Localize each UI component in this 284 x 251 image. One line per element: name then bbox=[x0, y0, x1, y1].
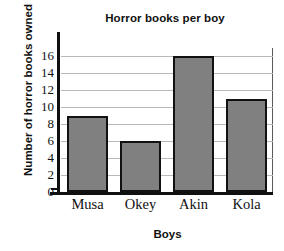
y-tick-label: 6 bbox=[28, 134, 54, 147]
gridline bbox=[61, 73, 273, 74]
x-tick-label-akin: Akin bbox=[167, 196, 220, 213]
y-axis-spine bbox=[57, 32, 60, 195]
gridline bbox=[61, 90, 273, 91]
gridline bbox=[61, 56, 273, 57]
bar-okey bbox=[120, 141, 161, 192]
origin-tick-mark bbox=[51, 188, 60, 190]
bar-akin bbox=[173, 56, 214, 192]
chart-title: Horror books per boy bbox=[60, 12, 270, 24]
y-tick-label: 10 bbox=[28, 100, 54, 113]
bar-chart-figure: Horror books per boy Number of horror bo… bbox=[0, 0, 284, 251]
x-axis-spine bbox=[50, 192, 273, 195]
y-tick-label: 14 bbox=[28, 66, 54, 79]
x-tick-label-okey: Okey bbox=[114, 196, 167, 213]
bar-kola bbox=[226, 99, 267, 192]
x-tick-label-kola: Kola bbox=[220, 196, 273, 213]
y-tick-label: 12 bbox=[28, 83, 54, 96]
y-tick-label: 4 bbox=[28, 151, 54, 164]
x-tick-label-musa: Musa bbox=[61, 196, 114, 213]
y-axis-tick-labels: 0246810121416 bbox=[24, 48, 54, 192]
y-tick-label: 2 bbox=[28, 168, 54, 181]
y-tick-label: 16 bbox=[28, 49, 54, 62]
x-axis-title: Boys bbox=[60, 228, 275, 240]
y-tick-label: 8 bbox=[28, 117, 54, 130]
plot-area bbox=[61, 48, 273, 192]
bar-musa bbox=[67, 116, 108, 192]
